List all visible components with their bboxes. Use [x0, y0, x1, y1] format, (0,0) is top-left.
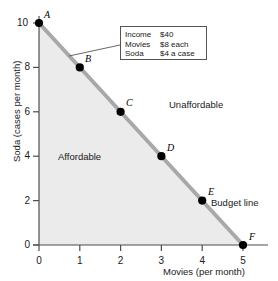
callout-value-income: $40	[160, 30, 206, 40]
x-tick-label-0: 0	[29, 256, 49, 266]
data-point-e	[198, 197, 206, 205]
callout-row-income: Income $40	[125, 30, 206, 40]
callout-leader-line	[69, 45, 120, 56]
data-point-f	[239, 241, 247, 249]
y-axis-ticks	[33, 23, 39, 245]
unaffordable-region-label: Unaffordable	[169, 100, 223, 110]
callout-key-soda: Soda	[125, 49, 160, 59]
x-axis-ticks	[39, 245, 243, 251]
y-tick-label-0: 0	[10, 240, 30, 250]
budget-line-label: Budget line	[211, 198, 259, 208]
callout-key-income: Income	[125, 30, 160, 40]
point-label-a: A	[44, 10, 50, 20]
affordable-region-label: Affordable	[58, 152, 101, 162]
x-tick-label-1: 1	[70, 256, 90, 266]
data-point-c	[117, 108, 125, 116]
callout-row-movies: Movies $8 each	[125, 40, 206, 50]
price-callout-box: Income $40 Movies $8 each Soda $4 a case	[120, 26, 207, 60]
y-tick-label-10: 10	[8, 18, 28, 28]
data-point-b	[76, 63, 84, 71]
data-point-a	[35, 19, 43, 27]
callout-key-movies: Movies	[125, 40, 160, 50]
x-tick-label-3: 3	[151, 256, 171, 266]
point-label-c: C	[126, 98, 133, 108]
point-label-f: F	[249, 232, 255, 242]
x-tick-label-5: 5	[233, 256, 253, 266]
x-tick-label-4: 4	[192, 256, 212, 266]
callout-row-soda: Soda $4 a case	[125, 49, 206, 59]
point-label-d: D	[167, 143, 174, 153]
y-tick-label-2: 2	[10, 196, 30, 206]
x-axis-title: Movies (per month)	[163, 267, 245, 277]
y-axis-title: Soda (cases per month)	[12, 61, 22, 162]
point-label-b: B	[85, 54, 91, 64]
callout-value-soda: $4 a case	[160, 49, 206, 59]
data-point-d	[157, 152, 165, 160]
point-label-e: E	[208, 187, 214, 197]
callout-value-movies: $8 each	[160, 40, 206, 50]
budget-line-chart: 0 2 4 6 8 10 0 1 2 3 4 5 Soda (cases per…	[0, 0, 278, 281]
x-tick-label-2: 2	[111, 256, 131, 266]
